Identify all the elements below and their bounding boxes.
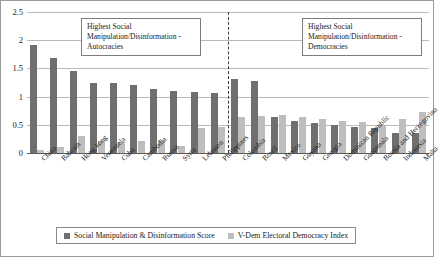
legend-label: Social Manipulation & Disinformation Sco… [74, 230, 215, 241]
y-axis-tick-label: 2.5 [1, 8, 23, 17]
annotation-autocracies: Highest Social Manipulation/Disinformati… [81, 18, 201, 56]
y-axis-tick-label: 2 [1, 36, 23, 45]
bar-group [50, 12, 65, 153]
legend-item-vdem-index: V-Dem Electoral Democracy Index [228, 230, 348, 241]
bar [198, 128, 205, 153]
legend-swatch-icon [228, 233, 234, 239]
bar-group [271, 12, 286, 153]
bar-group [251, 12, 266, 153]
annotation-democracies: Highest Social Manipulation/Disinformati… [302, 18, 422, 56]
x-axis-labels: ChinaBahrainHong kongVenezuelaCubaCambod… [27, 155, 429, 217]
bar [279, 115, 286, 153]
y-axis-tick-label: 1.5 [1, 64, 23, 73]
legend-item-social-manipulation: Social Manipulation & Disinformation Sco… [64, 230, 215, 241]
bar [191, 92, 198, 153]
bar-group [30, 12, 45, 153]
legend-label: V-Dem Electoral Democracy Index [238, 230, 348, 241]
y-axis-tick-label: 1 [1, 93, 23, 102]
bar [30, 45, 37, 153]
bar-group [211, 12, 226, 153]
bar [130, 85, 137, 153]
y-axis-tick-label: 0.5 [1, 121, 23, 130]
chart-legend: Social Manipulation & Disinformation Sco… [56, 227, 356, 244]
y-axis-tick-label: 0 [1, 149, 23, 158]
bar [50, 58, 57, 153]
legend-swatch-icon [64, 233, 70, 239]
